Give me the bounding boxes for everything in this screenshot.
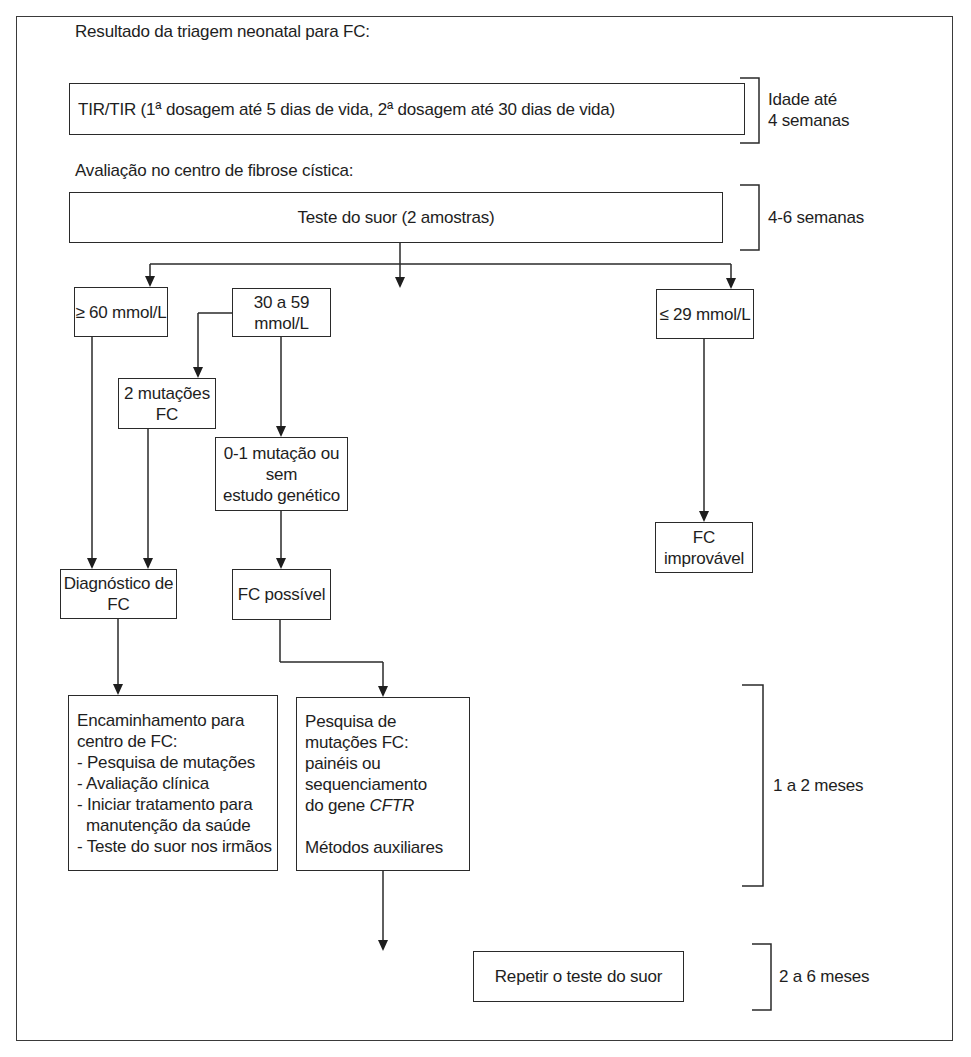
referral-title: Encaminhamento para centro de FC: bbox=[77, 710, 277, 752]
timeline-label-2-text: 4-6 semanas bbox=[768, 207, 864, 228]
timeline-label-1-line2: 4 semanas bbox=[768, 110, 849, 131]
low-chloride-text: ≤ 29 mmol/L bbox=[659, 304, 750, 325]
sweat-test-box: Teste do suor (2 amostras) bbox=[69, 192, 723, 243]
mutation-research-line2: painéis ou sequenciamento bbox=[305, 753, 469, 795]
two-mutations-text: 2 mutações FC bbox=[119, 383, 215, 425]
timeline-label-2: 4-6 semanas bbox=[768, 207, 864, 228]
referral-item: - Pesquisa de mutações bbox=[77, 752, 255, 773]
cf-diagnosis-box: Diagnóstico de FC bbox=[60, 569, 177, 619]
timeline-label-1: Idade até 4 semanas bbox=[768, 89, 849, 131]
timeline-label-3-text: 1 a 2 meses bbox=[773, 775, 863, 796]
mutation-research-line1: Pesquisa de mutações FC: bbox=[305, 711, 469, 753]
two-mutations-box: 2 mutações FC bbox=[118, 378, 216, 429]
cf-center-evaluation-title: Avaliação no centro de fibrose cística: bbox=[75, 160, 353, 181]
cf-possible-box: FC possível bbox=[232, 569, 331, 620]
tir-box: TIR/TIR (1ª dosagem até 5 dias de vida, … bbox=[69, 83, 745, 135]
referral-box: Encaminhamento para centro de FC: - Pesq… bbox=[68, 695, 278, 871]
cf-unlikely-box: FC improvável bbox=[655, 522, 753, 573]
referral-item: manutenção da saúde bbox=[77, 815, 251, 836]
gene-name-cftr: CFTR bbox=[370, 796, 415, 815]
referral-item: - Iniciar tratamento para bbox=[77, 794, 252, 815]
zero-one-mutation-box: 0-1 mutação ou sem estudo genético bbox=[215, 437, 348, 511]
tir-text: TIR/TIR (1ª dosagem até 5 dias de vida, … bbox=[78, 99, 615, 120]
referral-item: - Avaliação clínica bbox=[77, 773, 209, 794]
high-chloride-box: ≥ 60 mmol/L bbox=[74, 287, 168, 337]
timeline-label-4-text: 2 a 6 meses bbox=[779, 966, 869, 987]
referral-item: - Teste do suor nos irmãos bbox=[77, 836, 272, 857]
zero-one-mutation-line2: estudo genético bbox=[223, 485, 340, 506]
screening-result-title: Resultado da triagem neonatal para FC: bbox=[75, 21, 370, 42]
timeline-label-1-line1: Idade até bbox=[768, 89, 849, 110]
gene-prefix: do gene bbox=[305, 796, 370, 815]
zero-one-mutation-line1: 0-1 mutação ou sem bbox=[216, 443, 347, 485]
repeat-sweat-test-box: Repetir o teste do suor bbox=[473, 951, 684, 1002]
repeat-sweat-test-text: Repetir o teste do suor bbox=[495, 966, 662, 987]
cf-unlikely-text: FC improvável bbox=[656, 527, 752, 569]
low-chloride-box: ≤ 29 mmol/L bbox=[656, 289, 754, 339]
mid-chloride-text: 30 a 59 mmol/L bbox=[233, 292, 330, 334]
timeline-label-3: 1 a 2 meses bbox=[773, 775, 863, 796]
mutation-research-line3: do gene CFTR bbox=[305, 795, 414, 816]
mutation-research-box: Pesquisa de mutações FC: painéis ou sequ… bbox=[296, 697, 470, 871]
cf-possible-text: FC possível bbox=[238, 584, 326, 605]
timeline-label-4: 2 a 6 meses bbox=[779, 966, 869, 987]
mid-chloride-box: 30 a 59 mmol/L bbox=[232, 288, 331, 337]
sweat-test-text: Teste do suor (2 amostras) bbox=[298, 207, 495, 228]
cf-diagnosis-text: Diagnóstico de FC bbox=[61, 573, 176, 615]
mutation-research-line4: Métodos auxiliares bbox=[305, 837, 443, 858]
high-chloride-text: ≥ 60 mmol/L bbox=[75, 302, 166, 323]
